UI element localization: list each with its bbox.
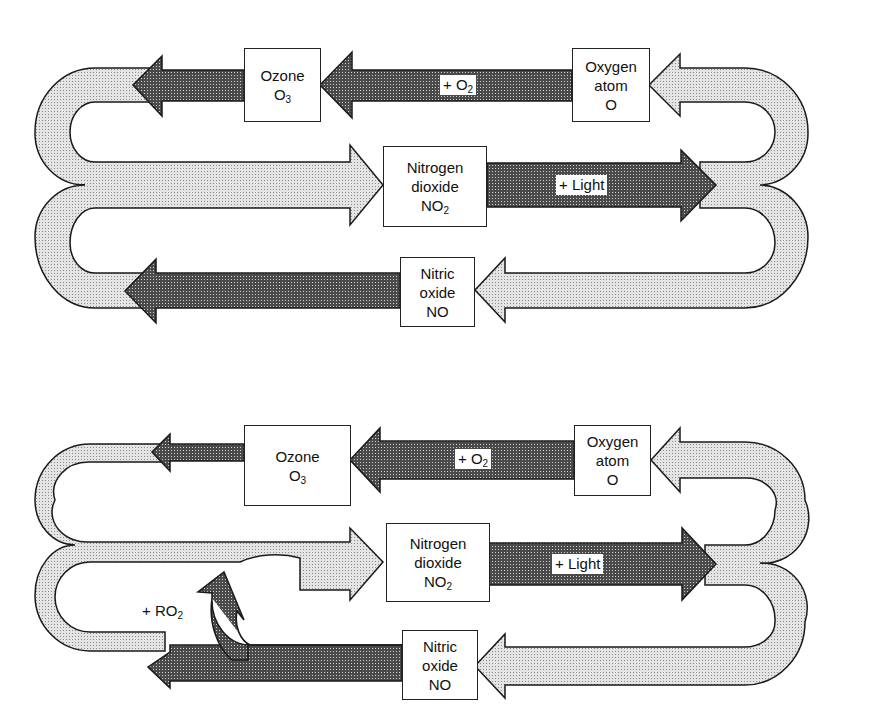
top-no2-name-2: dioxide [411,177,459,196]
bottom-ozone-out-arrow [152,434,244,471]
top-ozone-box: Ozone O3 [244,48,321,122]
bottom-nitrogen-dioxide-box: Nitrogen dioxide NO2 [386,523,490,602]
top-oxygen-atom-name-2: atom [594,76,627,95]
top-no2-formula: NO2 [421,196,449,215]
top-plus-light-label: + Light [556,175,607,195]
bottom-oxygen-atom-name-1: Oxygen [587,432,639,451]
top-oxygen-atom-name-1: Oxygen [585,57,637,76]
top-ozone-formula: O3 [274,85,291,104]
bottom-ozone-formula: O3 [289,466,306,485]
top-oxygen-atom-box: Oxygen atom O [572,48,650,122]
top-no-name-2: oxide [420,283,456,302]
top-nitrogen-dioxide-box: Nitrogen dioxide NO2 [383,146,487,227]
bottom-nitric-oxide-box: Nitric oxide NO [402,630,478,700]
bottom-no-out-arrow [148,645,402,688]
bottom-no-name-2: oxide [422,656,458,675]
top-ozone-out-arrow [133,56,244,116]
top-no2-name-1: Nitrogen [407,158,464,177]
top-no-out-arrow [125,259,400,323]
bottom-no-formula: NO [429,675,452,694]
cycle-diagram-arrows [0,0,874,727]
bottom-no2-formula: NO2 [424,572,452,591]
top-oxygen-atom-formula: O [605,95,617,114]
top-no-name-1: Nitric [420,264,454,283]
bottom-plus-light-label: + Light [552,554,603,574]
top-nitric-oxide-box: Nitric oxide NO [400,257,475,327]
bottom-oxygen-atom-box: Oxygen atom O [574,425,651,496]
bottom-oxygen-atom-name-2: atom [596,451,629,470]
bottom-ozone-box: Ozone O3 [244,425,351,506]
bottom-plus-o2-label: + O2 [455,449,491,469]
top-ozone-name: Ozone [260,66,304,85]
top-plus-o2-label: + O2 [440,75,476,95]
bottom-no-name-1: Nitric [423,637,457,656]
bottom-no2-name-1: Nitrogen [410,534,467,553]
bottom-plus-ro2-label: + RO2 [142,602,183,619]
bottom-oxygen-atom-formula: O [607,470,619,489]
top-no-formula: NO [426,302,449,321]
top-left-loop-arrow [35,68,383,308]
bottom-no2-name-2: dioxide [414,553,462,572]
bottom-ozone-name: Ozone [275,447,319,466]
